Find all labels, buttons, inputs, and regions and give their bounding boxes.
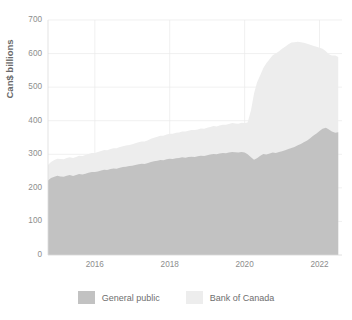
legend-item[interactable]: General public [78, 291, 160, 304]
legend-item[interactable]: Bank of Canada [186, 291, 275, 304]
x-tick-label: 2018 [150, 261, 190, 269]
legend-label: General public [102, 293, 160, 303]
area-series-group [48, 42, 338, 255]
x-tick-label: 2020 [225, 261, 265, 269]
legend-label: Bank of Canada [210, 293, 275, 303]
stacked-area-chart: Can$ billions 0100200300400500600700 201… [0, 0, 352, 320]
x-tick-label: 2022 [300, 261, 340, 269]
legend-swatch [186, 291, 203, 304]
y-tick-label: 400 [16, 117, 42, 125]
y-tick-label: 700 [16, 16, 42, 24]
y-tick-label: 200 [16, 184, 42, 192]
x-tick-label: 2016 [75, 261, 115, 269]
y-tick-label: 600 [16, 50, 42, 58]
y-tick-label: 500 [16, 83, 42, 91]
y-tick-label: 300 [16, 150, 42, 158]
y-axis-title: Can$ billions [4, 85, 15, 99]
plot-area [0, 0, 352, 320]
y-tick-label: 100 [16, 217, 42, 225]
y-tick-label: 0 [16, 251, 42, 259]
legend-swatch [78, 291, 95, 304]
chart-legend: General publicBank of Canada [0, 291, 352, 304]
